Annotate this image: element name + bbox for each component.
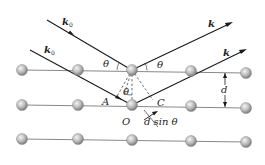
bragg-diagram: [0, 0, 265, 165]
atom: [73, 65, 84, 76]
theta-out-label: θ: [157, 60, 163, 70]
atom: [127, 100, 138, 111]
k0-lower-label: k0: [44, 45, 55, 56]
k-lower-label: k: [223, 48, 230, 58]
k-upper-arrow-icon: [225, 22, 233, 27]
atom: [241, 103, 252, 114]
k0-upper-ray: [47, 20, 130, 69]
atom: [186, 136, 197, 147]
atom: [127, 135, 138, 146]
k-upper-ray: [134, 24, 229, 69]
path-difference-label: d sin θ: [144, 117, 178, 127]
atoms: [17, 65, 252, 148]
atom: [127, 65, 138, 76]
dsin-arrow-icon: [152, 111, 158, 116]
atom: [17, 100, 28, 111]
atom: [17, 134, 28, 145]
k-upper-label: k: [208, 19, 215, 29]
theta-in-label: θ: [103, 59, 109, 69]
atom: [186, 66, 197, 77]
atom: [241, 137, 252, 148]
atom: [17, 65, 28, 76]
k-lower-arrow-icon: [239, 49, 247, 54]
k0-upper-label: k0: [62, 17, 73, 28]
d-down-arrow-icon: [223, 102, 227, 107]
atom: [186, 101, 197, 112]
incident-rays: [30, 20, 130, 104]
point-O-label: O: [122, 117, 130, 127]
point-C-label: C: [157, 98, 165, 108]
theta-mid-label: θ: [123, 87, 129, 97]
theta-in-arc: [117, 63, 119, 70]
point-A-label: A: [102, 97, 109, 107]
atom: [241, 68, 252, 79]
spacing-d-label: d: [221, 85, 227, 95]
atom: [73, 134, 84, 145]
k0-lower-ray: [30, 50, 130, 104]
d-up-arrow-icon: [223, 73, 227, 78]
atom: [73, 100, 84, 111]
k0-lower-arrow-icon: [115, 95, 122, 100]
